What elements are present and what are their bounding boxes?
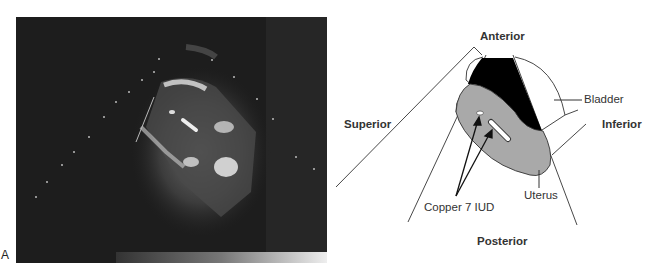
ultrasound-image [16,17,327,263]
anatomy-diagram: Anterior Superior Inferior Posterior Bla… [330,0,663,271]
label-inferior: Inferior [602,118,642,130]
label-uterus: Uterus [524,189,558,201]
panel-label: A [1,248,9,262]
label-posterior: Posterior [477,235,528,247]
label-superior: Superior [344,118,391,130]
label-bladder: Bladder [584,93,624,105]
label-anterior: Anterior [480,30,525,42]
label-copper-iud: Copper 7 IUD [424,201,494,213]
